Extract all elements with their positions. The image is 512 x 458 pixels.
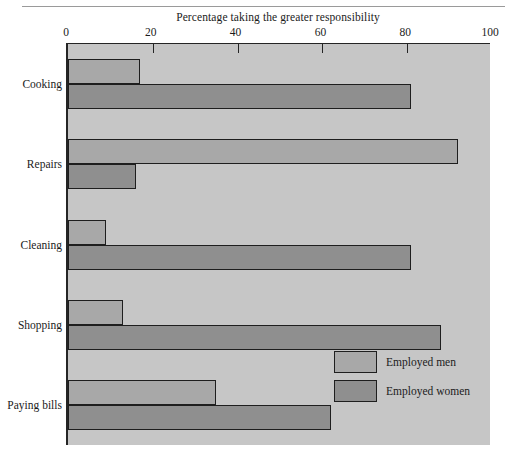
x-tick-mark [153, 44, 154, 53]
x-tick-label: 100 [481, 26, 498, 38]
chart-legend: Employed menEmployed women [334, 351, 484, 409]
bar [68, 405, 331, 430]
bar [68, 380, 216, 405]
x-tick-mark [322, 44, 323, 53]
legend-swatch [334, 380, 377, 402]
x-tick-label: 40 [230, 26, 242, 38]
x-axis-tick-labels: 020406080100 [0, 26, 512, 40]
legend-item: Employed men [334, 351, 484, 373]
y-category-label: Cleaning [20, 239, 62, 251]
bar [68, 84, 411, 109]
legend-label: Employed men [386, 356, 456, 368]
top-divider-rule [22, 6, 505, 7]
legend-label: Employed women [386, 385, 470, 397]
bar [68, 300, 123, 325]
y-category-label: Repairs [27, 158, 62, 170]
chart-figure: Percentage taking the greater responsibi… [0, 0, 512, 458]
bar [68, 139, 458, 164]
x-tick-mark [238, 44, 239, 53]
x-tick-mark [407, 44, 408, 53]
legend-item: Employed women [334, 380, 484, 402]
x-tick-label: 80 [399, 26, 411, 38]
x-tick-label: 0 [63, 26, 69, 38]
y-category-label: Paying bills [7, 399, 62, 411]
y-category-label: Shopping [18, 319, 62, 331]
chart-axis-title: Percentage taking the greater responsibi… [66, 11, 490, 23]
bar [68, 59, 140, 84]
bar [68, 164, 136, 189]
bar [68, 325, 441, 350]
bar [68, 245, 411, 270]
plot-area: Employed menEmployed women [66, 44, 490, 445]
y-axis-category-labels: CookingRepairsCleaningShoppingPaying bil… [0, 44, 62, 445]
x-tick-label: 60 [315, 26, 327, 38]
y-category-label: Cooking [22, 78, 62, 90]
legend-swatch [334, 351, 377, 373]
bar [68, 220, 106, 245]
x-tick-label: 20 [145, 26, 157, 38]
